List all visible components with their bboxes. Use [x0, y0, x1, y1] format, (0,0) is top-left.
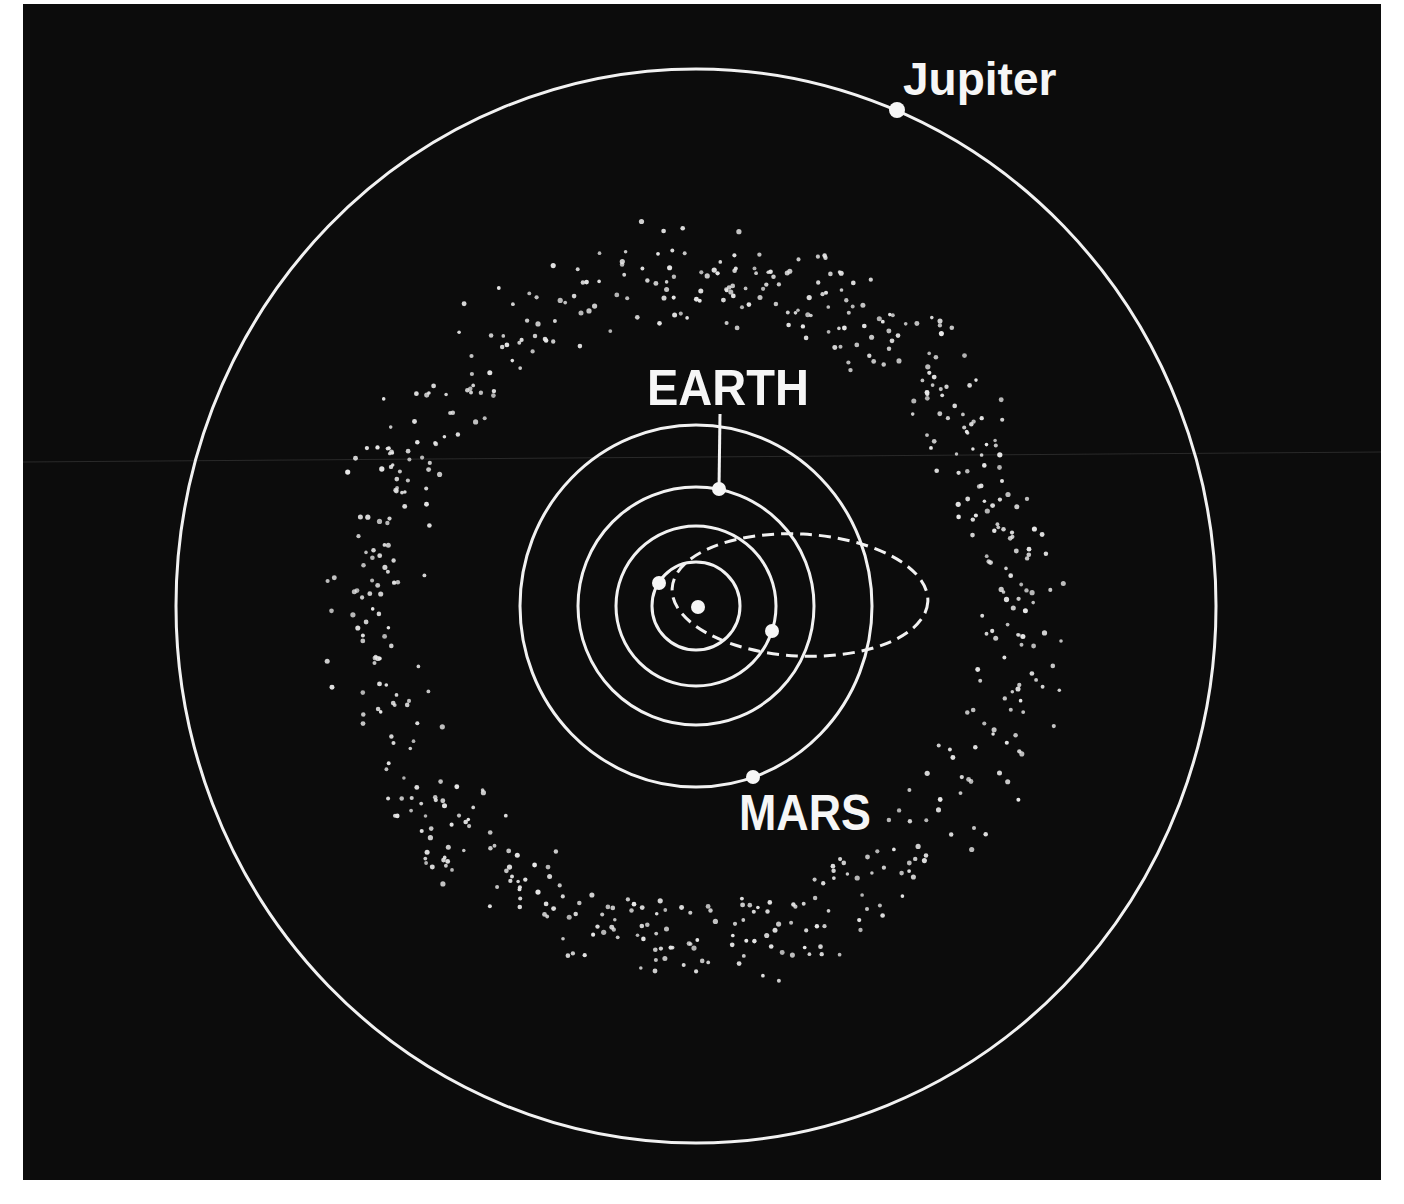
asteroid-dot	[974, 513, 978, 517]
asteroid-dot	[838, 953, 842, 957]
asteroid-dot	[1061, 581, 1066, 586]
asteroid-dot	[914, 321, 919, 326]
asteroid-dot	[796, 257, 800, 261]
asteroid-dot	[820, 292, 824, 296]
asteroid-dot	[689, 942, 693, 946]
asteroid-dot	[997, 465, 1002, 470]
asteroid-dot	[988, 560, 993, 565]
asteroid-dot	[752, 910, 756, 914]
asteroid-dot	[518, 366, 522, 370]
asteroid-dot	[761, 287, 765, 291]
asteroid-dot	[698, 299, 702, 303]
asteroid-dot	[683, 251, 687, 255]
asteroid-dot	[659, 946, 663, 950]
asteroid-dot	[787, 269, 792, 274]
asteroid-dot	[934, 355, 939, 360]
asteroid-dot	[705, 273, 710, 278]
asteroid-dot	[807, 295, 812, 300]
asteroid-dot	[896, 333, 901, 338]
asteroid-dot	[325, 659, 330, 664]
asteroid-dot	[731, 934, 735, 938]
asteroid-dot	[851, 281, 856, 286]
asteroid-dot	[844, 298, 848, 302]
asteroid-dot	[978, 679, 982, 683]
asteroid-dot	[1032, 526, 1037, 531]
asteroid-dot	[495, 885, 499, 889]
asteroid-dot	[882, 866, 886, 870]
asteroid-dot	[616, 935, 620, 939]
asteroid-dot	[956, 515, 961, 520]
asteroid-dot	[932, 439, 937, 444]
asteroid-dot	[518, 885, 522, 889]
asteroid-dot	[378, 591, 383, 596]
asteroid-dot	[515, 853, 520, 858]
asteroid-dot	[1006, 623, 1010, 627]
asteroid-dot	[847, 311, 851, 315]
asteroid-dot	[706, 961, 710, 965]
asteroid-dot	[444, 864, 448, 868]
asteroid-dot	[753, 266, 757, 270]
asteroid-dot	[377, 612, 382, 617]
asteroid-dot	[518, 896, 522, 900]
asteroid-dot	[846, 360, 850, 364]
asteroid-dot	[823, 256, 827, 260]
asteroid-dot	[721, 298, 726, 303]
asteroid-dot	[991, 732, 995, 736]
asteroid-dot	[361, 563, 366, 568]
asteroid-dot	[774, 302, 779, 307]
asteroid-dot	[444, 393, 448, 397]
asteroid-dot	[450, 868, 454, 872]
earth-label-leader-line	[719, 414, 720, 489]
asteroid-dot	[653, 281, 658, 286]
asteroid-dot	[767, 900, 772, 905]
asteroid-dot	[422, 573, 426, 577]
asteroid-dot	[511, 359, 515, 363]
asteroid-dot	[956, 471, 960, 475]
asteroid-dot	[386, 797, 390, 801]
sun-icon	[691, 600, 705, 614]
asteroid-dot	[881, 362, 886, 367]
asteroid-dot	[371, 548, 376, 553]
asteroid-dot	[345, 470, 350, 475]
asteroid-dot	[407, 457, 411, 461]
asteroid-dot	[640, 905, 645, 910]
asteroid-dot	[586, 308, 591, 313]
asteroid-dot	[999, 587, 1004, 592]
asteroid-dot	[938, 797, 943, 802]
asteroid-dot	[952, 404, 957, 409]
asteroid-dot	[932, 375, 937, 380]
jupiter-label: Jupiter	[903, 53, 1056, 105]
asteroid-dot	[777, 282, 781, 286]
asteroid-dot	[871, 359, 876, 364]
asteroid-dot	[403, 490, 407, 494]
asteroid-dot	[469, 354, 473, 358]
asteroid-dot	[911, 398, 916, 403]
asteroid-dot	[1021, 710, 1025, 714]
asteroid-dot	[747, 903, 752, 908]
asteroid-dot	[980, 614, 984, 618]
asteroid-dot	[737, 961, 742, 966]
asteroid-dot	[544, 902, 549, 907]
asteroid-dot	[993, 636, 998, 641]
asteroid-dot	[977, 484, 981, 488]
asteroid-dot	[441, 858, 446, 863]
asteroid-dot	[740, 305, 744, 309]
asteroid-dot	[922, 858, 927, 863]
asteroid-dot	[414, 391, 419, 396]
asteroid-dot	[661, 229, 666, 234]
asteroid-dot	[551, 339, 555, 343]
asteroid-dot	[925, 771, 930, 776]
asteroid-dot	[1020, 634, 1025, 639]
asteroid-dot	[442, 803, 447, 808]
asteroid-dot	[791, 902, 795, 906]
asteroid-dot	[488, 830, 493, 835]
asteroid-dot	[996, 525, 1000, 529]
asteroid-dot	[636, 933, 640, 937]
asteroid-dot	[492, 389, 496, 393]
asteroid-dot	[1011, 690, 1015, 694]
asteroid-dot	[358, 515, 363, 520]
asteroid-dot	[1004, 567, 1008, 571]
asteroid-dot	[433, 441, 437, 445]
asteroid-dot	[983, 832, 988, 837]
asteroid-dot	[939, 331, 944, 336]
